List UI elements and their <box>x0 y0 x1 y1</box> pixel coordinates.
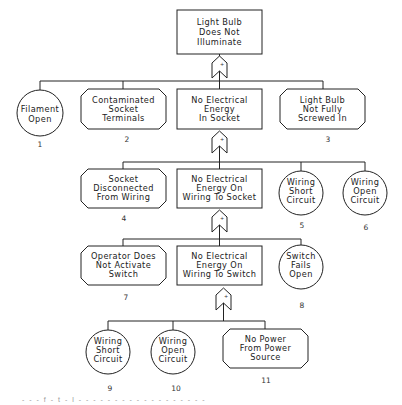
svg-text:In Socket: In Socket <box>199 113 241 123</box>
basic-event-wiring-open-circuit: Wiring Open Circuit 6 <box>343 171 387 232</box>
svg-text:Wiring To Switch: Wiring To Switch <box>183 269 257 279</box>
svg-text:Source: Source <box>250 352 281 362</box>
basic-event-switch-fails-open: Switch Fails Open 8 <box>279 245 323 310</box>
undeveloped-event-contaminated-socket-terminals: Contaminated Socket Terminals 2 <box>81 89 166 144</box>
event-number: 2 <box>125 135 130 144</box>
svg-text:+: + <box>220 61 224 67</box>
svg-text:Illuminate: Illuminate <box>197 37 242 47</box>
intermediate-event-no-electrical-energy-on-wiring-to-switch: No Electrical Energy On Wiring To Switch <box>177 246 262 285</box>
svg-text:+: + <box>220 136 224 142</box>
event-number: 10 <box>171 384 181 393</box>
or-gate-icon: + <box>212 210 227 246</box>
svg-text:Filament: Filament <box>21 104 60 114</box>
svg-text:Switch: Switch <box>109 269 138 279</box>
event-number: 7 <box>124 293 129 302</box>
svg-text:Open: Open <box>28 114 51 124</box>
or-gate-icon: + <box>212 131 227 169</box>
basic-event-wiring-short-circuit-2: Wiring Short Circuit 9 <box>86 330 130 393</box>
basic-event-wiring-open-circuit-2: Wiring Open Circuit 10 <box>151 330 195 393</box>
event-number: 1 <box>38 140 43 149</box>
event-number: 8 <box>300 301 305 310</box>
fault-tree-diagram: Light Bulb Does Not Illuminate + Filamen… <box>0 0 402 405</box>
svg-text:Terminals: Terminals <box>101 113 144 123</box>
event-number: 4 <box>122 214 127 223</box>
event-number: 5 <box>300 221 305 230</box>
or-gate-icon: + <box>212 54 227 89</box>
svg-text:Open: Open <box>289 269 312 279</box>
figure-caption-cropped: - - - f - t - l - - - - - - - - - - - - … <box>22 396 206 403</box>
undeveloped-event-socket-disconnected-from-wiring: Socket Disconnected From Wiring 4 <box>81 169 166 223</box>
intermediate-event-no-electrical-energy-in-socket: No Electrical Energy In Socket <box>177 89 262 129</box>
event-number: 6 <box>364 223 369 232</box>
svg-text:Circuit: Circuit <box>93 354 123 364</box>
connector-lines-row3 <box>123 239 301 246</box>
svg-text:Circuit: Circuit <box>350 195 380 205</box>
event-number: 3 <box>326 135 331 144</box>
svg-text:Light Bulb: Light Bulb <box>197 17 242 27</box>
svg-text:Wiring To Socket: Wiring To Socket <box>183 192 257 202</box>
intermediate-event-no-electrical-energy-on-wiring-to-socket: No Electrical Energy On Wiring To Socket <box>177 169 262 208</box>
undeveloped-event-light-bulb-not-fully-screwed-in: Light Bulb Not Fully Screwed In 3 <box>280 89 365 144</box>
svg-text:From Wiring: From Wiring <box>97 192 151 202</box>
undeveloped-event-no-power-from-power-source: No Power From Power Source 11 <box>223 329 308 385</box>
event-number: 9 <box>108 384 113 393</box>
svg-text:+: + <box>224 293 228 299</box>
basic-event-filament-open: Filament Open 1 <box>17 90 63 149</box>
svg-text:Does Not: Does Not <box>199 27 240 37</box>
event-number: 11 <box>261 376 271 385</box>
svg-text:+: + <box>220 215 224 221</box>
basic-event-wiring-short-circuit: Wiring Short Circuit 5 <box>279 171 323 230</box>
or-gate-icon: + <box>216 288 231 321</box>
svg-text:Screwed In: Screwed In <box>298 113 347 123</box>
undeveloped-event-operator-does-not-activate-switch: Operator Does Not Activate Switch 7 <box>81 246 166 302</box>
svg-text:Circuit: Circuit <box>286 195 316 205</box>
svg-text:Circuit: Circuit <box>158 354 188 364</box>
top-event-light-bulb-does-not-illuminate: Light Bulb Does Not Illuminate <box>177 10 262 54</box>
